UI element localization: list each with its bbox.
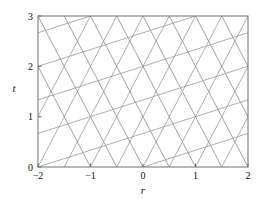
y-tick-label-3: 3 — [28, 11, 33, 22]
x-axis-label: r — [141, 184, 146, 196]
x-tick-label-2: 0 — [141, 170, 146, 181]
characteristics-plot: −2−10120123 r t — [0, 0, 262, 199]
figure-container: −2−10120123 r t — [0, 0, 262, 199]
y-tick-label-2: 2 — [28, 61, 33, 72]
x-tick-label-1: −1 — [85, 170, 96, 181]
x-tick-label-0: −2 — [33, 170, 44, 181]
y-tick-label-0: 0 — [28, 162, 33, 173]
y-tick-label-1: 1 — [28, 111, 33, 122]
x-tick-label-4: 2 — [246, 170, 251, 181]
x-tick-label-3: 1 — [193, 170, 198, 181]
